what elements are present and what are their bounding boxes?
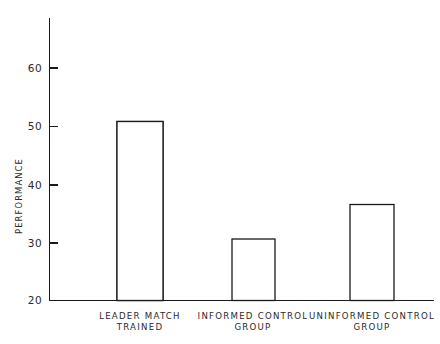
x-category-label-1-line2: TRAINED — [116, 322, 164, 332]
x-category-label-3-line2: GROUP — [353, 322, 390, 332]
bar-rect — [350, 205, 394, 301]
x-category-label-2-line1: INFORMED CONTROL — [198, 311, 309, 321]
y-tick-label-60: 60 — [28, 62, 42, 74]
bar-rect-edge — [117, 122, 163, 301]
bar-rect — [232, 239, 275, 301]
bar-uninformed-control-group — [350, 205, 394, 301]
y-tick-label-50: 50 — [28, 120, 42, 132]
x-category-label-2-line2: GROUP — [234, 322, 271, 332]
chart-canvas: 60 50 40 30 20 PERFORMANCE LEADER MATCH … — [0, 0, 440, 344]
y-tick-label-40: 40 — [28, 179, 42, 191]
y-axis-ticks — [50, 68, 59, 243]
y-tick-label-30: 30 — [28, 237, 42, 249]
y-axis-title: PERFORMANCE — [14, 158, 24, 234]
y-tick-label-20: 20 — [28, 294, 42, 306]
x-category-label-3-line1: UNINFORMED CONTROL — [309, 311, 435, 321]
bar-informed-control-group — [232, 239, 275, 301]
bar-chart-figure: 60 50 40 30 20 PERFORMANCE LEADER MATCH … — [0, 0, 440, 344]
bar-leader-match-trained — [117, 122, 163, 301]
x-category-label-1-line1: LEADER MATCH — [99, 311, 181, 321]
